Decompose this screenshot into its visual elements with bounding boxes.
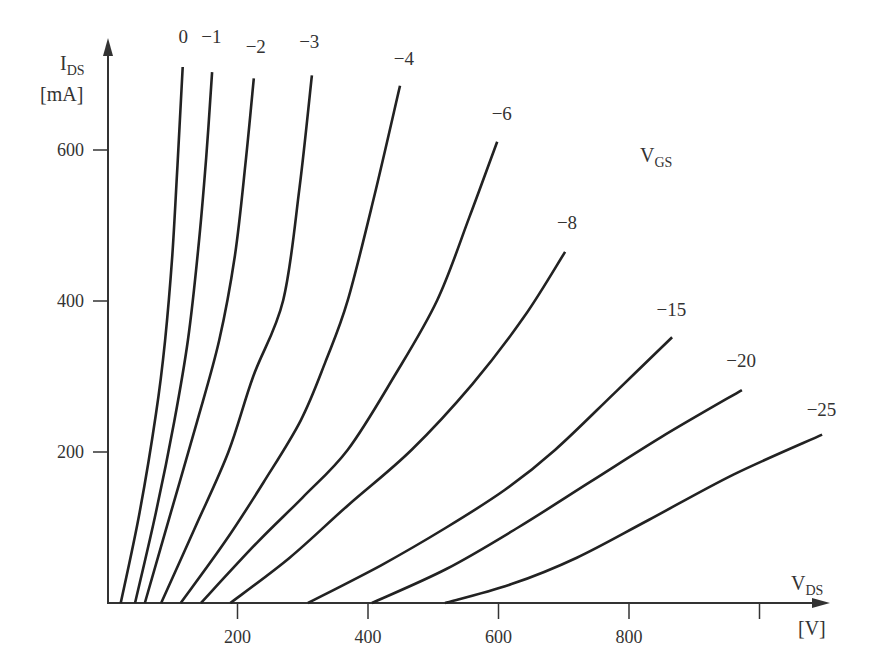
curve-label: −3 bbox=[299, 31, 319, 52]
axes bbox=[103, 38, 830, 608]
y-ticks: 200400600 bbox=[57, 140, 108, 462]
y-axis-unit: [mA] bbox=[40, 83, 83, 105]
x-tick-label: 400 bbox=[355, 627, 382, 647]
curve-label: −1 bbox=[201, 26, 221, 47]
curve-label: −20 bbox=[726, 350, 756, 371]
curve-label: −15 bbox=[657, 299, 687, 320]
legend-title: VGS bbox=[640, 144, 672, 170]
y-tick-label: 200 bbox=[57, 442, 84, 462]
x-tick-label: 800 bbox=[616, 627, 643, 647]
x-axis-title: VDS bbox=[791, 572, 823, 598]
curve-vgs-neg4 bbox=[181, 86, 400, 603]
curves bbox=[121, 67, 822, 603]
x-ticks: 200400600800 bbox=[224, 603, 760, 647]
curve-vgs-neg15 bbox=[308, 337, 672, 603]
curve-vgs-neg8 bbox=[230, 252, 565, 603]
curve-label: −2 bbox=[246, 36, 266, 57]
curve-label: −4 bbox=[394, 48, 415, 69]
x-axis-arrow-icon bbox=[812, 598, 830, 608]
y-tick-label: 600 bbox=[57, 140, 84, 160]
curve-label: −8 bbox=[557, 212, 577, 233]
x-tick-label: 600 bbox=[485, 627, 512, 647]
curve-label: −6 bbox=[492, 103, 512, 124]
curve-vgs-neg20 bbox=[372, 390, 742, 603]
y-axis-arrow-icon bbox=[103, 38, 113, 56]
x-axis-unit: [V] bbox=[798, 617, 826, 639]
iv-characteristic-chart: 200400600800 200400600 0−1−2−3−4−6−8−15−… bbox=[0, 0, 875, 672]
y-axis-title: IDS bbox=[60, 52, 85, 78]
curve-vgs-neg25 bbox=[445, 435, 822, 603]
curve-label: −25 bbox=[807, 399, 837, 420]
x-tick-label: 200 bbox=[224, 627, 251, 647]
curve-vgs-neg6 bbox=[201, 142, 497, 603]
y-tick-label: 400 bbox=[57, 291, 84, 311]
curve-labels: 0−1−2−3−4−6−8−15−20−25 bbox=[179, 26, 837, 420]
curve-label: 0 bbox=[179, 26, 189, 47]
curve-vgs-neg1 bbox=[135, 72, 212, 603]
curve-vgs-0 bbox=[121, 67, 183, 603]
